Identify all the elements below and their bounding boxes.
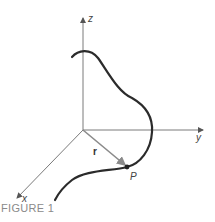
position-vector-r [83, 130, 125, 165]
space-curve-diagram: z y x r P [0, 0, 215, 222]
x-axis [17, 130, 83, 198]
figure-caption: FIGURE 1 [1, 202, 54, 214]
y-axis-label: y [195, 132, 202, 143]
z-axis-label: z [87, 13, 93, 24]
vector-r-label: r [93, 146, 97, 157]
point-p [125, 165, 130, 170]
point-p-label: P [130, 171, 137, 182]
space-curve [55, 51, 152, 200]
